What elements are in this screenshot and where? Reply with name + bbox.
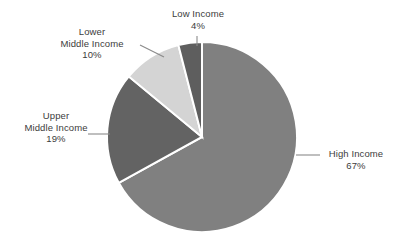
slice-label-lower-middle-income-line2: Middle Income (44, 38, 140, 50)
slice-label-upper-middle-income: Upper Middle Income 19% (4, 110, 108, 145)
pie-chart: Low Income 4% Lower Middle Income 10% Up… (0, 0, 394, 249)
slice-label-high-income-text: High Income (329, 148, 383, 159)
slice-label-lower-middle-income-line1: Lower (79, 26, 105, 37)
slice-label-high-income-percent: 67% (320, 160, 392, 172)
pie-slices (107, 42, 297, 232)
slice-label-lower-middle-income-percent: 10% (44, 49, 140, 61)
slice-label-high-income: High Income 67% (320, 148, 392, 171)
slice-label-low-income-percent: 4% (150, 20, 246, 32)
slice-label-low-income: Low Income 4% (150, 8, 246, 31)
slice-label-lower-middle-income: Lower Middle Income 10% (44, 26, 140, 61)
slice-label-upper-middle-income-line1: Upper (43, 110, 69, 121)
slice-label-upper-middle-income-percent: 19% (4, 133, 108, 145)
slice-label-low-income-text: Low Income (172, 8, 224, 19)
slice-label-upper-middle-income-line2: Middle Income (4, 122, 108, 134)
